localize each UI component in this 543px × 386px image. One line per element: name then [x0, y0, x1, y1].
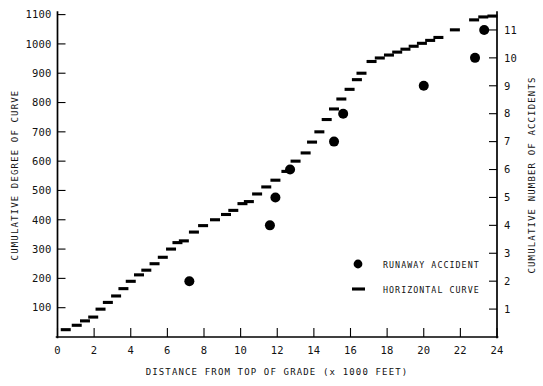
- left-axis-ticks: 10020030040050060070080090010001100: [25, 8, 65, 313]
- right-axis-ticks: 1234567891011: [489, 24, 517, 315]
- left-tick-label: 300: [32, 243, 52, 255]
- legend-label-runaway-accident: RUNAWAY ACCIDENT: [383, 260, 480, 270]
- left-tick-label: 200: [32, 272, 52, 284]
- bottom-tick-label: 0: [54, 344, 61, 356]
- accident-point: [329, 137, 339, 147]
- left-tick-label: 800: [32, 96, 52, 108]
- left-tick-label: 1000: [25, 38, 51, 50]
- legend-marker-runaway-accident: [354, 260, 363, 269]
- bottom-tick-label: 24: [490, 344, 503, 356]
- accident-point: [265, 220, 275, 230]
- left-tick-label: 100: [32, 301, 52, 313]
- bottom-tick-label: 6: [164, 344, 171, 356]
- chart-legend: RUNAWAY ACCIDENT HORIZONTAL CURVE: [352, 260, 480, 295]
- accident-point: [479, 25, 489, 35]
- right-axis-title: CUMULATIVE NUMBER OF ACCIDENTS: [527, 76, 537, 273]
- right-tick-label: 2: [504, 275, 511, 287]
- right-tick-label: 1: [504, 303, 511, 315]
- chart-figure: 10020030040050060070080090010001100 1234…: [0, 0, 543, 386]
- right-tick-label: 7: [504, 135, 511, 147]
- chart-canvas: 10020030040050060070080090010001100 1234…: [0, 0, 543, 386]
- horizontal-curve-series: [61, 16, 498, 330]
- right-tick-label: 8: [504, 107, 511, 119]
- accident-point: [470, 53, 480, 63]
- left-tick-label: 900: [32, 67, 52, 79]
- left-tick-label: 700: [32, 126, 52, 138]
- bottom-tick-label: 18: [381, 344, 394, 356]
- bottom-tick-label: 14: [307, 344, 320, 356]
- right-tick-label: 6: [504, 163, 511, 175]
- bottom-tick-label: 2: [91, 344, 98, 356]
- right-tick-label: 9: [504, 80, 511, 92]
- left-tick-label: 1100: [25, 8, 51, 20]
- accident-point: [270, 192, 280, 202]
- right-tick-label: 4: [504, 219, 511, 231]
- bottom-tick-label: 10: [234, 344, 247, 356]
- x-axis-title: DISTANCE FROM TOP OF GRADE (x 1000 FEET): [146, 367, 409, 377]
- left-axis-title: CUMULATIVE DEGREE OF CURVE: [10, 90, 20, 261]
- bottom-tick-label: 12: [271, 344, 284, 356]
- accident-point: [338, 109, 348, 119]
- right-tick-label: 3: [504, 247, 511, 259]
- bottom-tick-label: 22: [454, 344, 467, 356]
- bottom-tick-label: 4: [127, 344, 134, 356]
- runaway-accident-series: [184, 25, 489, 286]
- bottom-tick-label: 20: [417, 344, 430, 356]
- bottom-tick-label: 16: [344, 344, 357, 356]
- accident-point: [184, 276, 194, 286]
- accident-point: [419, 81, 429, 91]
- left-tick-label: 400: [32, 214, 52, 226]
- right-tick-label: 10: [504, 52, 517, 64]
- accident-point: [285, 165, 295, 175]
- left-tick-label: 600: [32, 155, 52, 167]
- bottom-axis-ticks: 024681012141618202224: [54, 328, 503, 356]
- legend-label-horizontal-curve: HORIZONTAL CURVE: [383, 285, 480, 295]
- left-tick-label: 500: [32, 184, 52, 196]
- right-tick-label: 5: [504, 191, 511, 203]
- bottom-tick-label: 8: [201, 344, 208, 356]
- right-tick-label: 11: [504, 24, 517, 36]
